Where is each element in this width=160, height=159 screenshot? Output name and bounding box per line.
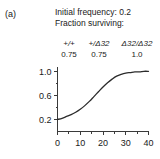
- chart-svg: 0.20.61.0 010203040: [0, 58, 160, 159]
- y-tick-label: 1.0: [39, 67, 52, 77]
- y-tick-label: 0.6: [39, 91, 52, 101]
- genotype-header-heterozygote: +/Δ32: [82, 38, 116, 49]
- figure-panel: (a) Initial frequency: 0.2 Fraction surv…: [0, 0, 160, 159]
- x-tick-label: 30: [121, 138, 131, 148]
- x-tick-label: 0: [55, 138, 60, 148]
- y-axis-tick-labels: 0.20.61.0: [39, 67, 52, 125]
- line-chart: 0.20.61.0 010203040: [0, 58, 160, 159]
- y-tick-label: 0.2: [39, 115, 52, 125]
- genotype-header-wildtype: +/+: [56, 38, 82, 49]
- genotype-table: +/+ +/Δ32 Δ32/Δ32 0.75 0.75 1.0: [56, 38, 158, 60]
- genotype-header-row: +/+ +/Δ32 Δ32/Δ32: [56, 38, 158, 49]
- allele-frequency-curve: [58, 71, 149, 119]
- x-tick-label: 10: [75, 138, 85, 148]
- x-tick-label: 20: [98, 138, 108, 148]
- genotype-header-homozygote: Δ32/Δ32: [116, 38, 158, 49]
- panel-label: (a): [5, 9, 16, 19]
- initial-frequency-text: Initial frequency: 0.2: [55, 7, 160, 18]
- axis-tick-marks: [54, 71, 149, 135]
- header-block: Initial frequency: 0.2 Fraction survivin…: [55, 7, 160, 29]
- x-tick-label: 40: [143, 138, 153, 148]
- x-axis-tick-labels: 010203040: [55, 138, 154, 148]
- fraction-surviving-text: Fraction surviving:: [55, 18, 160, 29]
